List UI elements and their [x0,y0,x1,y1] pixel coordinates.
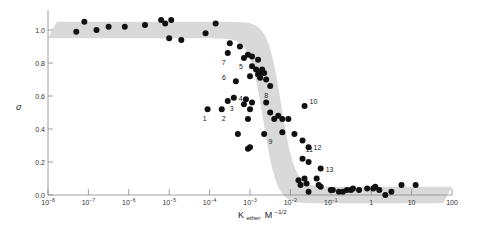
data-point [259,67,265,73]
y-tick-label: 0.4 [35,126,45,133]
data-point [93,27,99,33]
point-label: 12 [314,144,322,151]
data-point [261,131,267,137]
data-point [318,184,324,190]
x-tick-label: 10 [408,199,416,206]
data-point [203,30,209,36]
y-tick-label: 0.8 [35,60,45,67]
data-point [178,37,184,43]
x-tick-label: 10−4 [203,197,217,206]
data-point [168,17,174,23]
data-point [306,189,312,195]
sigmoid-band [48,22,452,204]
outlier-point [302,103,308,109]
point-label: 7 [222,59,226,66]
data-point [413,182,419,188]
outlier-point [241,55,247,61]
data-point [245,116,251,122]
point-label: 9 [268,138,272,145]
x-tick-label: 10−2 [284,197,298,206]
data-point [291,131,297,137]
data-point [399,182,405,188]
y-tick-label: 1.0 [35,27,45,34]
data-point [263,77,269,83]
point-label: 6 [222,74,226,81]
data-point [279,116,285,122]
point-label: 1 [203,115,207,122]
outlier-point [300,138,306,144]
data-point [267,110,273,116]
data-point [314,176,320,182]
data-point [298,182,304,188]
data-point [213,20,219,26]
x-tick-label: 1 [369,199,373,206]
data-point [350,185,356,191]
y-tick-label: 0.6 [35,93,45,100]
y-tick-label: 0.2 [35,159,45,166]
x-tick-label: 10−1 [324,197,338,206]
point-label: 8 [264,92,268,99]
point-label: 13 [326,166,334,173]
x-tick-label: 10−5 [162,197,176,206]
outlier-point [225,98,231,104]
x-tick-label: 10−7 [82,197,96,206]
data-point [364,185,370,191]
outlier-point [205,106,211,112]
point-label: 3 [230,105,234,112]
x-tick-label: 100 [446,199,458,206]
y-axis-title: σ [16,102,22,112]
data-point [81,19,87,25]
data-point [330,187,336,193]
sigma-vs-k-chart: 10−810−710−610−510−410−310−210−11101000.… [0,0,482,233]
outlier-point [318,166,324,172]
outlier-point [233,78,239,84]
x-tick-label: 10−3 [243,197,257,206]
data-point [235,131,241,137]
data-point [263,100,269,106]
data-point [166,35,172,41]
data-point [247,144,253,150]
data-point [73,29,79,35]
data-point [388,189,394,195]
outlier-point [267,83,273,89]
data-point [247,106,253,112]
data-point [142,22,148,28]
data-point [227,40,233,46]
y-tick-label: 0.0 [35,192,45,199]
data-point [249,100,255,106]
data-point [247,73,253,79]
data-point [304,180,310,186]
point-label: 4 [239,95,243,102]
data-point [249,53,255,59]
data-point [306,159,312,165]
point-label: 2 [222,115,226,122]
outlier-point [219,106,225,112]
point-label: 5 [239,63,243,70]
outlier-point [279,129,285,135]
outlier-point [231,95,237,101]
data-point [162,20,168,26]
data-point [285,116,291,122]
data-point [376,187,382,193]
x-axis-title: K ether M −1/2 [238,209,287,222]
point-label: 10 [310,98,318,105]
data-point [122,24,128,30]
data-point [237,44,243,50]
outlier-point [225,50,231,56]
data-point [356,187,362,193]
x-tick-label: 10−6 [122,197,136,206]
data-point [300,156,306,162]
data-point [106,24,112,30]
point-label: 11 [306,146,313,153]
data-point [243,96,249,102]
data-point [382,192,388,198]
data-point [255,57,261,63]
